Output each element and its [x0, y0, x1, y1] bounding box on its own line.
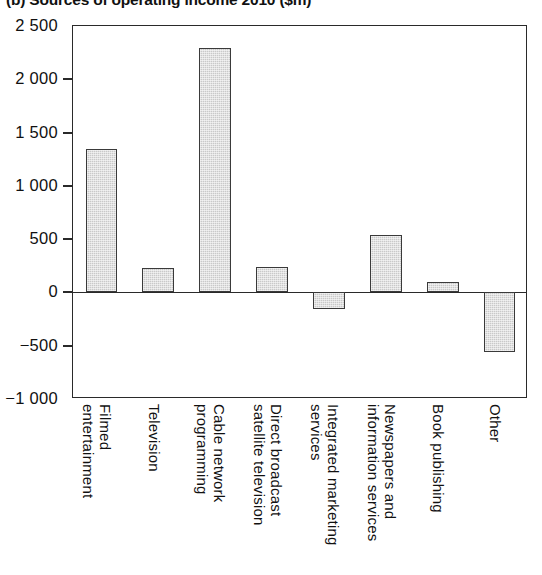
zero-baseline [73, 292, 526, 293]
x-axis-label: Integrated marketing services [307, 404, 341, 546]
x-axis-label: Filmed entertainment [80, 404, 114, 498]
chart-title: (b) Sources of operating income 2010 ($m… [6, 0, 311, 9]
bar [142, 268, 174, 292]
bar [199, 48, 231, 292]
y-axis-label: −1 000 [0, 390, 58, 407]
x-axis-label: Direct broadcast satellite television [250, 404, 284, 526]
y-axis-label: 500 [0, 230, 58, 247]
x-axis-label: Book publishing [429, 404, 446, 513]
x-axis-label: Cable network programming [193, 404, 227, 502]
y-axis-label: 1 500 [0, 124, 58, 141]
x-axis-label: Other [486, 404, 503, 443]
plot-area [72, 25, 527, 398]
x-axis-label: Television [145, 404, 162, 472]
y-axis-label: 2 000 [0, 70, 58, 87]
x-axis-label: Newspapers and information services [364, 404, 398, 541]
y-axis-label: 0 [0, 283, 58, 300]
bar [427, 282, 459, 293]
bar [484, 292, 516, 352]
y-axis-label: −500 [0, 337, 58, 354]
bar [313, 292, 345, 309]
y-axis-label: 1 000 [0, 177, 58, 194]
bar [370, 235, 402, 292]
bar [86, 149, 118, 293]
y-axis-label: 2 500 [0, 17, 58, 34]
bar [256, 267, 288, 293]
